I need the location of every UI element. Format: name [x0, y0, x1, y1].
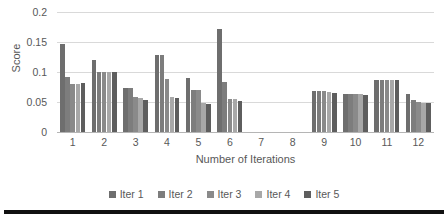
- bar: [332, 93, 337, 132]
- legend-label: Iter 2: [169, 188, 193, 200]
- bar: [385, 80, 390, 132]
- bar: [160, 55, 165, 132]
- bar: [123, 88, 128, 132]
- bar: [175, 98, 180, 132]
- bar-group: [57, 12, 88, 132]
- bar-group: [277, 12, 308, 132]
- x-tick-label: 11: [371, 136, 402, 152]
- bar: [222, 82, 227, 132]
- bar: [60, 44, 65, 132]
- legend-swatch-icon: [207, 191, 214, 198]
- bar-group: [246, 12, 277, 132]
- gridline: [57, 132, 434, 133]
- bar: [421, 103, 426, 132]
- bar: [201, 103, 206, 132]
- bar: [65, 77, 70, 132]
- bar: [374, 80, 379, 132]
- bar: [170, 97, 175, 132]
- bar: [97, 72, 102, 132]
- bar: [348, 94, 353, 132]
- bar: [406, 94, 411, 132]
- legend-item[interactable]: Iter 1: [109, 188, 144, 200]
- bar: [358, 94, 363, 132]
- legend-item[interactable]: Iter 3: [207, 188, 242, 200]
- bar: [133, 97, 138, 132]
- bar: [363, 95, 368, 132]
- bar-group: [340, 12, 371, 132]
- plot-area: [57, 12, 434, 132]
- bar: [128, 88, 133, 132]
- x-tick-label: 7: [246, 136, 277, 152]
- bar: [138, 98, 143, 132]
- bar-group: [151, 12, 182, 132]
- x-tick-label: 10: [340, 136, 371, 152]
- bar-group: [183, 12, 214, 132]
- legend-label: Iter 1: [120, 188, 144, 200]
- bar: [206, 104, 211, 132]
- bar: [196, 90, 201, 132]
- legend-item[interactable]: Iter 2: [158, 188, 193, 200]
- legend-item[interactable]: Iter 5: [304, 188, 339, 200]
- legend-label: Iter 5: [315, 188, 339, 200]
- bar: [380, 80, 385, 132]
- x-tick-label: 2: [88, 136, 119, 152]
- x-tick-label: 4: [151, 136, 182, 152]
- bar: [102, 72, 107, 132]
- x-tick-label: 5: [183, 136, 214, 152]
- bar: [395, 80, 400, 132]
- bar: [390, 80, 395, 132]
- bar: [165, 79, 170, 132]
- legend-item[interactable]: Iter 4: [255, 188, 290, 200]
- y-tick-label: 0: [41, 126, 47, 138]
- bar-group: [308, 12, 339, 132]
- legend-label: Iter 4: [266, 188, 290, 200]
- bar-group: [403, 12, 434, 132]
- bar: [155, 55, 160, 132]
- x-tick-label: 3: [120, 136, 151, 152]
- bar: [76, 84, 81, 132]
- bar: [228, 99, 233, 132]
- y-tick-label: 0.2: [32, 6, 47, 18]
- bar-group: [120, 12, 151, 132]
- bar: [233, 99, 238, 132]
- y-tick-label: 0.1: [32, 66, 47, 78]
- bar: [317, 91, 322, 132]
- bar: [327, 92, 332, 132]
- legend-label: Iter 3: [218, 188, 242, 200]
- bar: [353, 94, 358, 132]
- chart-legend: Iter 1Iter 2Iter 3Iter 4Iter 5: [0, 188, 448, 200]
- y-axis-tick-labels: 0.20.150.10.050: [0, 12, 52, 132]
- bottom-rule-divider: [4, 210, 444, 214]
- x-tick-label: 1: [57, 136, 88, 152]
- bar: [238, 101, 243, 132]
- bar: [112, 72, 117, 132]
- bar: [426, 103, 431, 132]
- bar: [70, 84, 75, 132]
- x-tick-label: 8: [277, 136, 308, 152]
- x-tick-label: 12: [403, 136, 434, 152]
- bar: [191, 90, 196, 132]
- bar-group: [88, 12, 119, 132]
- y-tick-label: 0.15: [27, 36, 47, 48]
- bar-group: [371, 12, 402, 132]
- bar: [312, 91, 317, 132]
- legend-swatch-icon: [158, 191, 165, 198]
- bar: [92, 60, 97, 132]
- bar: [81, 83, 86, 132]
- bar-chart-figure: Score 0.20.150.10.050 123456789101112 Nu…: [0, 0, 448, 218]
- bar: [322, 91, 327, 132]
- bar: [107, 72, 112, 132]
- x-tick-label: 6: [214, 136, 245, 152]
- bar: [411, 100, 416, 132]
- x-axis-title: Number of Iterations: [57, 153, 434, 165]
- bar: [217, 29, 222, 132]
- legend-swatch-icon: [255, 191, 262, 198]
- legend-swatch-icon: [304, 191, 311, 198]
- legend-swatch-icon: [109, 191, 116, 198]
- x-tick-label: 9: [308, 136, 339, 152]
- x-axis-tick-labels: 123456789101112: [57, 136, 434, 152]
- y-tick-label: 0.05: [27, 96, 47, 108]
- bar: [343, 94, 348, 132]
- bar: [143, 100, 148, 132]
- bar: [416, 102, 421, 132]
